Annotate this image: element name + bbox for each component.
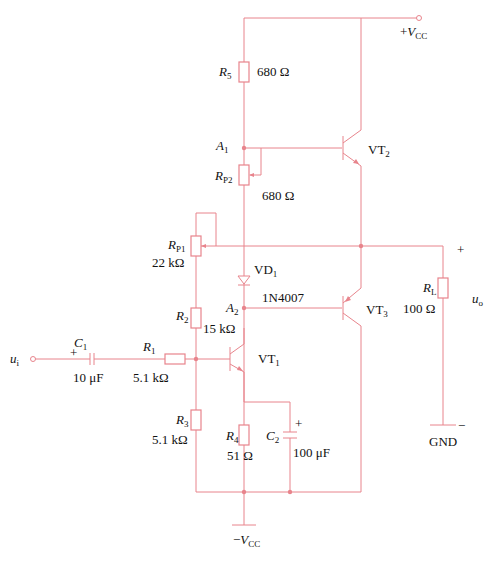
c1-capacitor [90, 353, 94, 365]
vcc-pos-label: +VCC [400, 24, 427, 41]
r3-resistor [191, 410, 201, 430]
rp1-label: RP1 [167, 237, 185, 254]
vt3-pnp-transistor [343, 288, 361, 326]
gnd-label: GND [429, 434, 457, 449]
c1-value: 10 μF [73, 370, 103, 385]
r4-resistor [239, 425, 249, 445]
c2-label: C2 [266, 428, 279, 445]
r1-label: R1 [142, 339, 155, 356]
output-node-dot [359, 244, 363, 248]
rp1-potentiometer [191, 236, 201, 256]
rp2-value: 680 Ω [262, 188, 294, 203]
rp1-value: 22 kΩ [152, 255, 184, 270]
vd1-diode [238, 276, 250, 285]
output-minus: − [458, 418, 465, 433]
rl-resistor [438, 278, 448, 298]
r2-resistor [191, 308, 201, 328]
rl-label: RL [422, 280, 436, 297]
vt1-label: VT1 [258, 351, 280, 368]
r5-label: R5 [218, 64, 232, 81]
r3-value: 5.1 kΩ [152, 432, 188, 447]
vt1-base-dot [194, 357, 198, 361]
input-label: ui [10, 351, 20, 368]
r2-label: R2 [175, 308, 188, 325]
r4-value: 51 Ω [227, 448, 253, 463]
node-a2-dot [242, 306, 246, 310]
node-a2-label: A2 [225, 300, 238, 317]
vd1-part-number: 1N4007 [262, 290, 304, 305]
r5-value: 680 Ω [257, 64, 289, 79]
rp2-label: RP2 [214, 168, 232, 185]
r5-resistor [239, 62, 249, 82]
output-label: uo [472, 291, 484, 308]
r1-value: 5.1 kΩ [133, 370, 169, 385]
vd1-label: VD1 [254, 262, 277, 279]
circuit-schematic: +VCC R5 680 Ω A1 VT2 RP2 680 Ω RP1 22 kΩ… [0, 0, 494, 561]
bottom-rail-dot [242, 490, 246, 494]
vcc-pos-terminal [417, 16, 422, 21]
c2-value: 100 μF [293, 445, 330, 460]
vt2-npn-transistor [343, 130, 361, 166]
node-a1-dot [242, 146, 246, 150]
c2-bottom-dot [288, 490, 292, 494]
rl-value: 100 Ω [403, 301, 435, 316]
input-terminal [31, 357, 36, 362]
c2-capacitor [283, 432, 297, 438]
rp2-potentiometer [239, 165, 249, 185]
output-plus: + [457, 242, 464, 257]
r1-resistor [165, 354, 185, 364]
vcc-neg-label: −VCC [233, 532, 260, 549]
vt3-label: VT3 [366, 302, 388, 319]
r2-value: 15 kΩ [203, 321, 235, 336]
r4-label: R4 [225, 428, 239, 445]
node-a1-label: A1 [215, 138, 228, 155]
vt2-label: VT2 [368, 142, 390, 159]
c2-polarity: + [295, 416, 302, 431]
rp1-wiper-arrow [201, 244, 206, 248]
r3-label: R3 [175, 412, 189, 429]
c1-polarity: + [70, 345, 77, 360]
rp2-wiper-arrow [249, 173, 254, 177]
